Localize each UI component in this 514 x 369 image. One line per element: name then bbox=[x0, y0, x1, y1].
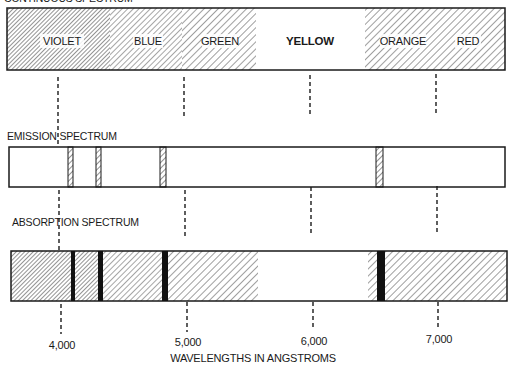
absorption-spectrum-label: ABSORPTION SPECTRUM bbox=[12, 216, 139, 228]
band-label-yellow: YELLOW bbox=[286, 35, 334, 47]
band-label-violet: VIOLET bbox=[43, 35, 81, 47]
absorption-line-6560 bbox=[377, 251, 385, 301]
emission-line-4860 bbox=[160, 147, 166, 187]
emission-spectrum bbox=[9, 147, 505, 187]
diagram-title: CONTINUOUS SPECTRUM bbox=[4, 0, 133, 4]
tick-label-5000: 5,000 bbox=[175, 336, 202, 348]
wavelength-guides-lower bbox=[61, 302, 438, 334]
emission-spectrum-frame bbox=[9, 147, 505, 187]
tick-label-7000: 7,000 bbox=[426, 333, 453, 345]
absorption-band-blue bbox=[100, 251, 163, 301]
spectrum-diagram: CONTINUOUS SPECTRUM VIOLET BLUE GREEN YE… bbox=[0, 0, 514, 369]
continuous-spectrum: VIOLET BLUE GREEN YELLOW ORANGE RED bbox=[7, 8, 505, 70]
axis-title: WAVELENGTHS IN ANGSTROMS bbox=[170, 352, 336, 364]
absorption-line-4860 bbox=[162, 251, 168, 301]
band-label-green: GREEN bbox=[201, 35, 239, 47]
absorption-line-4340 bbox=[98, 251, 103, 301]
tick-label-6000: 6,000 bbox=[301, 335, 328, 347]
band-label-blue: BLUE bbox=[134, 35, 162, 47]
absorption-band-orange-red bbox=[368, 251, 507, 301]
absorption-spectrum bbox=[11, 251, 507, 301]
absorption-band-green bbox=[163, 251, 258, 301]
emission-line-4100 bbox=[68, 147, 73, 187]
band-label-orange: ORANGE bbox=[380, 35, 426, 47]
emission-spectrum-label: EMISSION SPECTRUM bbox=[7, 130, 117, 142]
absorption-band-yellow bbox=[258, 251, 368, 301]
wavelength-axis: 4,000 5,000 6,000 7,000 WAVELENGTHS IN A… bbox=[49, 333, 453, 364]
emission-line-4340 bbox=[96, 147, 101, 187]
absorption-band-violet bbox=[11, 251, 70, 301]
band-label-red: RED bbox=[457, 35, 480, 47]
emission-line-6560 bbox=[376, 147, 383, 187]
absorption-line-4100 bbox=[71, 251, 75, 301]
tick-label-4000: 4,000 bbox=[49, 339, 76, 351]
